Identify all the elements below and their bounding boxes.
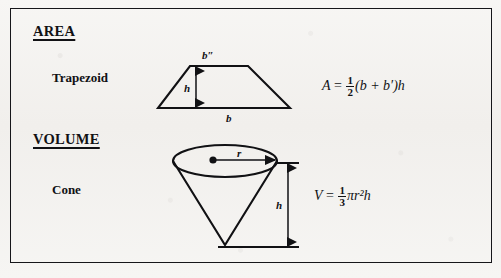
section-heading-area: AREA xyxy=(33,23,75,40)
formula-area-fraction: 12 xyxy=(346,75,354,98)
formula-volume-denominator: 3 xyxy=(338,197,346,208)
formula-area: A = 12(b + b′)h xyxy=(322,75,405,98)
formula-area-numerator: 1 xyxy=(346,75,354,87)
formula-area-lhs: A xyxy=(322,78,331,93)
formula-volume-tail: πr²h xyxy=(347,188,371,203)
formula-reference-card: AREA Trapezoid A = 12(b + b′)h VOLUME Co… xyxy=(0,0,501,278)
formula-area-denominator: 2 xyxy=(346,87,354,98)
formula-volume-equals: = xyxy=(326,188,334,203)
formula-volume-numerator: 1 xyxy=(338,185,346,197)
formula-volume-fraction: 13 xyxy=(338,185,346,208)
formula-area-equals: = xyxy=(334,78,342,93)
shape-label-trapezoid: Trapezoid xyxy=(52,70,108,86)
formula-volume-lhs: V xyxy=(314,188,323,203)
shape-label-cone: Cone xyxy=(52,182,81,198)
formula-area-tail: (b + b′)h xyxy=(355,78,405,93)
formula-volume: V = 13πr²h xyxy=(314,185,371,208)
section-heading-volume: VOLUME xyxy=(33,131,100,148)
